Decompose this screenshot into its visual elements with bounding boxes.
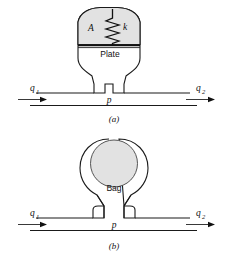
inflow-subscript-a: 1 [36,88,39,95]
panel-a-group: A k Plate q 1 q 2 [18,8,215,125]
inflow-arrow-a [18,97,47,102]
inflow-arrow-b [18,222,47,227]
diagram-canvas: A k Plate q 1 q 2 [0,0,229,261]
bag-circle-b [91,140,138,187]
panel-b-group: Bag q 1 q 2 p (b) [18,139,215,251]
plate-label-a: Plate [100,49,120,59]
pressure-label-b: p [111,220,117,230]
caption-b: (b) [109,241,120,251]
outflow-subscript-b: 2 [202,213,206,220]
area-label-a: A [87,23,94,33]
outflow-arrow-b [186,222,215,227]
figure-container: A k Plate q 1 q 2 [0,0,229,261]
outflow-subscript-a: 2 [202,88,206,95]
caption-a: (a) [109,114,120,124]
outflow-label-a: q [196,83,201,93]
bag-label-b: Bag [106,183,121,193]
inflow-subscript-b: 1 [36,213,39,220]
outflow-label-b: q [196,208,201,218]
pressure-label-a: p [106,95,112,105]
outflow-arrow-a [186,97,215,102]
inflow-label-a: q [30,83,35,93]
inflow-label-b: q [30,208,35,218]
